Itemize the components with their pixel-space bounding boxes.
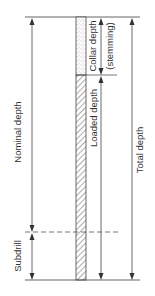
collar-depth-arrow	[99, 18, 104, 75]
charge-column	[76, 75, 86, 280]
stemming-label: (stemming)	[104, 22, 115, 70]
total-depth-label: Total depth	[134, 127, 145, 173]
blasthole-diagram: Nominal depth Subdrill Collar depth (ste…	[0, 0, 155, 296]
collar-depth-label: Collar depth	[87, 20, 98, 71]
subdrill-arrow	[30, 233, 35, 280]
loaded-depth-label: Loaded depth	[88, 89, 99, 147]
nominal-depth-label: Nominal depth	[12, 101, 23, 162]
subdrill-label: Subdrill	[12, 240, 23, 272]
stemming-column	[76, 17, 86, 75]
nominal-depth-arrow	[30, 18, 35, 232]
loaded-depth-arrow	[99, 76, 104, 280]
